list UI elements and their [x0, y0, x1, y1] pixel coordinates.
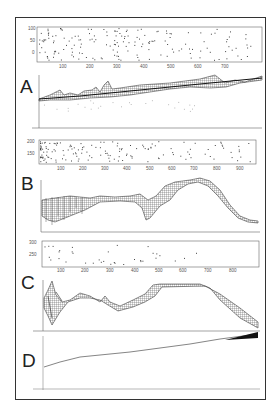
svg-text:150: 150 — [27, 151, 35, 156]
svg-text:600: 600 — [179, 268, 187, 273]
svg-text:700: 700 — [190, 166, 198, 171]
panel-label-a: A — [20, 76, 33, 98]
svg-text:100: 100 — [59, 64, 67, 69]
panel-d-line — [33, 332, 260, 390]
panel-label-c: C — [21, 272, 35, 294]
svg-text:600: 600 — [168, 166, 176, 171]
svg-text:500: 500 — [146, 166, 154, 171]
svg-text:300: 300 — [106, 268, 114, 273]
svg-text:400: 400 — [123, 166, 131, 171]
panel-label-d: D — [22, 350, 36, 372]
svg-text:0: 0 — [32, 50, 35, 55]
panel-b-surface — [41, 178, 260, 232]
svg-text:100: 100 — [57, 268, 65, 273]
svg-text:200: 200 — [81, 268, 89, 273]
svg-text:250: 250 — [29, 252, 37, 257]
svg-text:400: 400 — [140, 64, 148, 69]
panel-label-b: B — [21, 173, 34, 195]
svg-text:500: 500 — [155, 268, 163, 273]
svg-text:900: 900 — [236, 166, 244, 171]
panel-c-surface — [33, 280, 260, 331]
panel-b-scatter: 200 150 100200300 400500600 700800900 — [27, 139, 256, 171]
svg-text:50: 50 — [30, 38, 36, 43]
svg-text:100: 100 — [57, 166, 65, 171]
svg-text:300: 300 — [101, 166, 109, 171]
svg-text:100: 100 — [28, 26, 36, 31]
svg-text:800: 800 — [229, 268, 237, 273]
svg-text:600: 600 — [194, 64, 202, 69]
svg-text:200: 200 — [86, 64, 94, 69]
svg-text:300: 300 — [113, 64, 121, 69]
svg-text:200: 200 — [79, 166, 87, 171]
figure-graphics: 100 50 0 100200300 400500600700 200 150 … — [0, 0, 277, 419]
svg-text:400: 400 — [131, 268, 139, 273]
panel-c-scatter: 300 250 100200300 400500600 700800 — [29, 240, 259, 273]
svg-text:200: 200 — [27, 139, 35, 144]
svg-text:700: 700 — [204, 268, 212, 273]
panel-a-surface — [32, 75, 262, 128]
svg-text:700: 700 — [221, 64, 229, 69]
svg-text:500: 500 — [167, 64, 175, 69]
panel-a-scatter: 100 50 0 100200300 400500600700 — [28, 26, 262, 69]
svg-text:300: 300 — [29, 240, 37, 245]
svg-text:800: 800 — [213, 166, 221, 171]
